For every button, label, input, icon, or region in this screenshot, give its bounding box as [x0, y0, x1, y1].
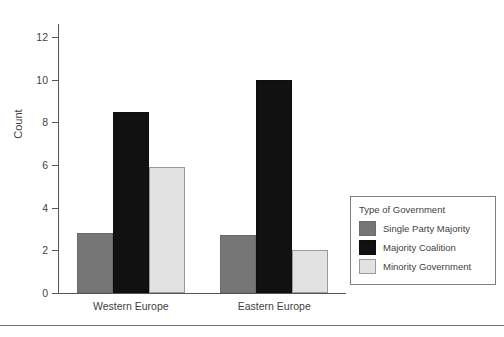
legend-item: Majority Coalition [359, 238, 487, 257]
y-axis-tick [52, 208, 59, 209]
bar [292, 250, 328, 293]
x-axis-group-label: Eastern Europe [204, 300, 344, 312]
y-axis-tick-label: 8 [2, 117, 48, 128]
y-axis-tick [52, 250, 59, 251]
legend-item: Minority Government [359, 257, 487, 276]
y-axis-tick-label: 10 [2, 74, 48, 85]
bar [220, 235, 256, 293]
bar [113, 112, 149, 293]
plot-area [59, 24, 346, 293]
legend-swatch-icon [359, 259, 376, 274]
y-axis-tick-label: 6 [2, 160, 48, 171]
y-axis-tick [52, 122, 59, 123]
x-axis-line [58, 293, 346, 294]
bar [77, 233, 113, 293]
bar [149, 167, 185, 293]
bar [256, 80, 292, 293]
legend-item: Single Party Majority [359, 219, 487, 238]
legend-swatch-icon [359, 221, 376, 236]
legend-title: Type of Government [359, 204, 487, 215]
legend-swatch-icon [359, 240, 376, 255]
y-axis-tick-label: 4 [2, 202, 48, 213]
y-axis-tick [52, 293, 59, 294]
legend-item-label: Single Party Majority [383, 223, 470, 234]
y-axis-tick-label: 12 [2, 32, 48, 43]
y-axis-tick [52, 37, 59, 38]
x-axis-group-label: Western Europe [61, 300, 201, 312]
footer-divider [0, 325, 504, 326]
y-axis-tick-label: 0 [2, 288, 48, 299]
legend-item-label: Minority Government [383, 261, 471, 272]
y-axis-tick [52, 80, 59, 81]
legend: Type of Government Single Party Majority… [350, 196, 496, 285]
bar-chart: Count 024681012 Western EuropeEastern Eu… [0, 0, 504, 337]
y-axis-tick-label: 2 [2, 245, 48, 256]
legend-item-label: Majority Coalition [383, 242, 456, 253]
y-axis-tick [52, 165, 59, 166]
